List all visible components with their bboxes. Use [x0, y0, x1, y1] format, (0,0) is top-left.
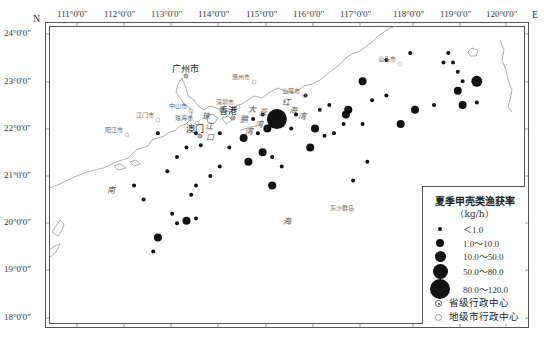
station-dot [218, 164, 222, 168]
station-dot [446, 51, 450, 55]
station-dot [218, 131, 222, 135]
sea-label: 南 [107, 184, 115, 195]
station-dot [332, 131, 336, 135]
station-dot [151, 250, 155, 254]
city-markers [125, 62, 402, 138]
prefecture-center-icon [156, 118, 160, 122]
station-dot [451, 60, 455, 64]
city-label: 阳江市 [105, 125, 123, 134]
station-dot [268, 181, 276, 189]
legend-prefecture: 地级市行政中心 [435, 309, 519, 323]
city-label: 江门市 [136, 110, 154, 119]
size-class-label: 10.0～50.0 [463, 250, 504, 263]
station-dot [289, 127, 293, 131]
city-label: 澳门 [186, 122, 204, 135]
city-label: 汕头市 [378, 54, 396, 63]
city-label: 东沙群岛 [330, 203, 354, 212]
station-dot [142, 198, 146, 202]
prefecture-center-label: 地级市行政中心 [449, 311, 519, 322]
station-dot [280, 164, 284, 168]
station-dot [327, 103, 331, 107]
station-dot [259, 148, 267, 156]
station-dot [442, 60, 446, 64]
size-class-dot-icon [435, 251, 446, 262]
station-dot [170, 212, 174, 216]
station-dot [411, 106, 419, 114]
size-class-dot-icon [436, 239, 444, 247]
prefecture-center-icon [125, 133, 129, 137]
city-label: 惠州市 [232, 72, 250, 81]
station-dot [471, 76, 482, 87]
station-dot [227, 146, 231, 150]
sea-label: 江 [205, 120, 213, 131]
station-dot [194, 217, 198, 221]
station-dot [311, 125, 319, 133]
city-label: 珠海市 [175, 113, 193, 122]
station-dot [199, 143, 203, 147]
legend: 夏季甲壳类渔获率 （kg/h） ＜1.01.0～10.010.0～50.050.… [422, 186, 525, 324]
station-dot [384, 94, 388, 98]
station-dot [194, 183, 198, 187]
legend-provincial: 省级行政中心 [435, 295, 509, 309]
prefecture-center-icon [435, 314, 442, 321]
station-dot [185, 146, 189, 150]
station-dot [365, 160, 369, 164]
station-dot [361, 122, 365, 126]
sea-label: 大 [248, 103, 256, 114]
prefecture-center-icon [398, 62, 402, 66]
city-label: 广州市 [172, 62, 199, 75]
station-dot [175, 221, 179, 225]
station-dot [156, 131, 160, 135]
station-dot [342, 110, 350, 118]
station-dot [208, 174, 212, 178]
size-class-label: 50.0～80.0 [463, 265, 504, 278]
station-dot [154, 233, 162, 241]
station-dot [306, 144, 314, 152]
sea-label: 湾 [255, 118, 263, 129]
station-dot [189, 193, 193, 197]
station-dot [323, 134, 327, 138]
size-class-dot-icon [438, 227, 442, 231]
sea-label: 湾 [298, 110, 306, 121]
sea-label: 海 [289, 104, 297, 115]
sea-label: 鹏 [240, 113, 248, 124]
station-dot [359, 77, 367, 85]
provincial-center-icon [435, 300, 442, 307]
station-dot [454, 87, 462, 95]
station-dot [342, 122, 346, 126]
station-dot [183, 217, 191, 225]
station-dot [270, 155, 274, 159]
station-dot [408, 51, 412, 55]
provincial-center-label: 省级行政中心 [449, 297, 509, 308]
prefecture-center-icon [252, 80, 256, 84]
station-dot [165, 169, 169, 173]
station-dot [256, 131, 260, 135]
station-dot [432, 103, 436, 107]
city-label: 汕尾市 [282, 86, 300, 95]
station-dot [475, 101, 479, 105]
station-dot [397, 120, 405, 128]
station-dot [244, 158, 252, 166]
city-label: 香港 [219, 104, 237, 117]
station-dot [459, 101, 467, 109]
station-dot [175, 155, 179, 159]
station-dot [351, 179, 355, 183]
sea-label: 湾 [245, 125, 253, 136]
city-label: 中山市 [169, 101, 187, 110]
size-class-dot-icon [433, 264, 448, 279]
legend-unit: （kg/h） [423, 207, 526, 220]
station-dot [318, 108, 322, 112]
station-dot [461, 79, 465, 83]
size-class-label: ＜1.0 [463, 223, 483, 236]
station-dot [263, 125, 271, 133]
station-dot [370, 98, 374, 102]
size-class-label: 1.0～10.0 [463, 237, 499, 250]
sea-label: 亚 [259, 106, 267, 117]
station-dot [132, 183, 136, 187]
sea-label: 口 [206, 131, 214, 142]
station-dot [456, 70, 460, 74]
legend-title: 夏季甲壳类渔获率 [423, 193, 526, 208]
sea-label: 海 [283, 215, 291, 226]
